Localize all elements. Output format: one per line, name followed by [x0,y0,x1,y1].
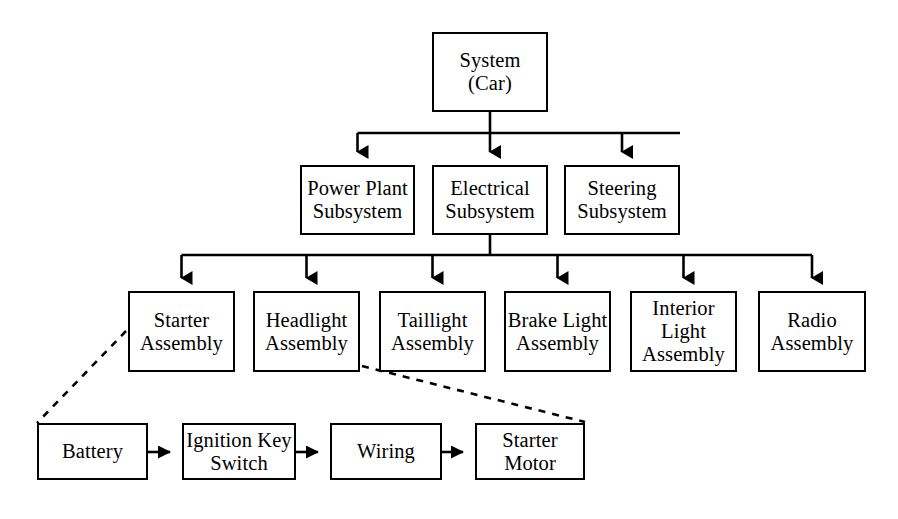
electrical-to-assemblies-connector [182,235,813,278]
node-taillight-assembly[interactable]: Taillight Assembly [379,291,486,372]
node-starter-assembly[interactable]: Starter Assembly [128,291,235,372]
node-interior-light-assembly[interactable]: Interior Light Assembly [630,291,737,372]
node-electrical-subsystem[interactable]: Electrical Subsystem [432,165,548,235]
node-starter-motor[interactable]: Starter Motor [475,423,585,480]
node-steering-subsystem[interactable]: Steering Subsystem [564,165,680,235]
node-radio-assembly[interactable]: Radio Assembly [758,291,866,372]
node-ignition-key-switch[interactable]: Ignition Key Switch [182,423,296,480]
node-battery[interactable]: Battery [37,423,148,480]
node-wiring[interactable]: Wiring [330,423,442,480]
node-system-car[interactable]: System (Car) [432,32,548,112]
diagram-canvas: System (Car) Power Plant Subsystem Elect… [0,0,898,519]
node-brake-light-assembly[interactable]: Brake Light Assembly [504,291,611,372]
system-to-subsystems-connector [358,112,681,152]
node-power-plant-subsystem[interactable]: Power Plant Subsystem [300,165,415,235]
node-headlight-assembly[interactable]: Headlight Assembly [253,291,360,372]
